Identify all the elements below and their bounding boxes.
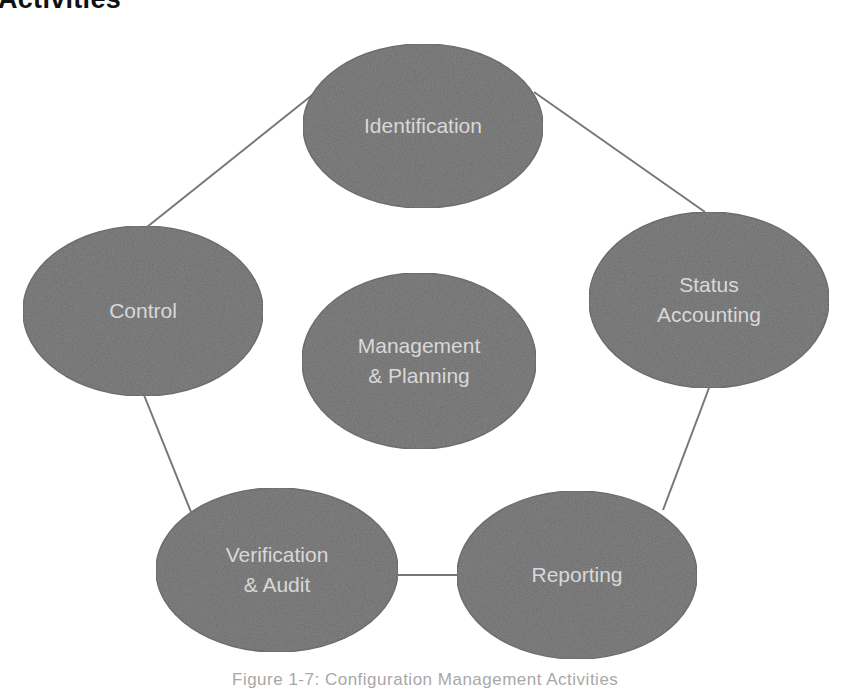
node-control: Control	[23, 226, 263, 396]
node-label: Reporting	[531, 563, 622, 586]
node-label: Control	[109, 299, 177, 322]
node-identification: Identification	[303, 44, 543, 208]
node-reporting: Reporting	[457, 491, 697, 659]
node-label: Identification	[364, 114, 482, 137]
connector-status-accounting-reporting	[663, 388, 709, 510]
ellipse-shape	[302, 273, 536, 449]
connector-identification-status-accounting	[534, 92, 705, 212]
node-label: & Audit	[244, 573, 311, 596]
node-management-planning: Management& Planning	[302, 273, 536, 449]
node-label: & Planning	[368, 364, 470, 387]
ellipse-shape	[156, 488, 398, 652]
node-label: Accounting	[657, 303, 761, 326]
node-verification-audit: Verification& Audit	[156, 488, 398, 652]
connector-identification-control	[147, 92, 316, 227]
node-label: Status	[679, 273, 739, 296]
ellipse-shape	[589, 212, 829, 388]
node-label: Management	[358, 334, 481, 357]
connector-control-verification-audit	[144, 395, 191, 512]
node-label: Verification	[226, 543, 329, 566]
node-status-accounting: StatusAccounting	[589, 212, 829, 388]
figure-caption: Figure 1-7: Configuration Management Act…	[232, 670, 618, 690]
activity-nodes: IdentificationControlStatusAccountingMan…	[23, 44, 829, 659]
